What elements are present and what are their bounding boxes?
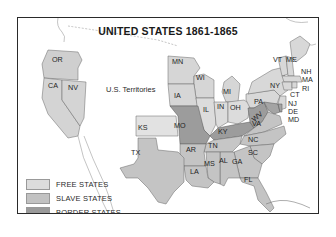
label-al: AL — [219, 156, 228, 165]
label-va: VA — [252, 119, 261, 128]
legend-label: FREE STATES — [56, 180, 108, 189]
legend-item-free: FREE STATES — [26, 177, 121, 191]
legend-item-border: BORDER STATES — [26, 205, 121, 214]
label-il: IL — [203, 105, 209, 114]
legend-label: BORDER STATES — [56, 208, 121, 215]
label-ny: NY — [270, 81, 280, 90]
free-states-swatch — [26, 179, 50, 190]
legend: FREE STATES SLAVE STATES BORDER STATES — [26, 177, 121, 214]
label-me: ME — [286, 55, 297, 64]
label-ct: CT — [290, 90, 300, 99]
label-vt: VT — [273, 55, 283, 64]
label-ca: CA — [48, 81, 58, 90]
slave-states-swatch — [26, 193, 50, 204]
label-or: OR — [52, 55, 63, 64]
label-ia: IA — [174, 91, 181, 100]
territories-label: U.S. Territories — [106, 85, 156, 94]
label-mi: MI — [223, 87, 231, 96]
label-mo: MO — [174, 121, 186, 130]
state-ia — [168, 84, 198, 106]
label-ga: GA — [232, 157, 243, 166]
label-wi: WI — [196, 73, 205, 82]
label-nc: NC — [248, 135, 258, 144]
label-ms: MS — [204, 159, 215, 168]
border-states-swatch — [26, 207, 50, 215]
map-title: UNITED STATES 1861-1865 — [18, 25, 318, 37]
state-ri — [292, 82, 297, 88]
state-tx — [120, 138, 184, 204]
label-ky: KY — [218, 127, 228, 136]
state-ma — [282, 76, 302, 82]
legend-item-slave: SLAVE STATES — [26, 191, 121, 205]
label-sc: SC — [248, 148, 258, 157]
label-md: MD — [288, 115, 299, 124]
state-ct — [282, 82, 292, 90]
label-nv: NV — [68, 83, 78, 92]
map-frame: U.S. Territories OR CA NV MN WI MI IA IL… — [17, 17, 319, 214]
label-in: IN — [217, 102, 224, 111]
label-fl: FL — [244, 175, 252, 184]
label-tn: TN — [208, 141, 218, 150]
legend-label: SLAVE STATES — [56, 194, 112, 203]
label-mn: MN — [172, 57, 183, 66]
label-ma: MA — [302, 75, 313, 84]
label-oh: OH — [230, 103, 241, 112]
label-ri: RI — [302, 84, 309, 93]
label-pa: PA — [254, 97, 263, 106]
label-tx: TX — [131, 148, 140, 157]
label-ar: AR — [186, 145, 196, 154]
label-la: LA — [190, 167, 199, 176]
label-ks: KS — [138, 123, 148, 132]
